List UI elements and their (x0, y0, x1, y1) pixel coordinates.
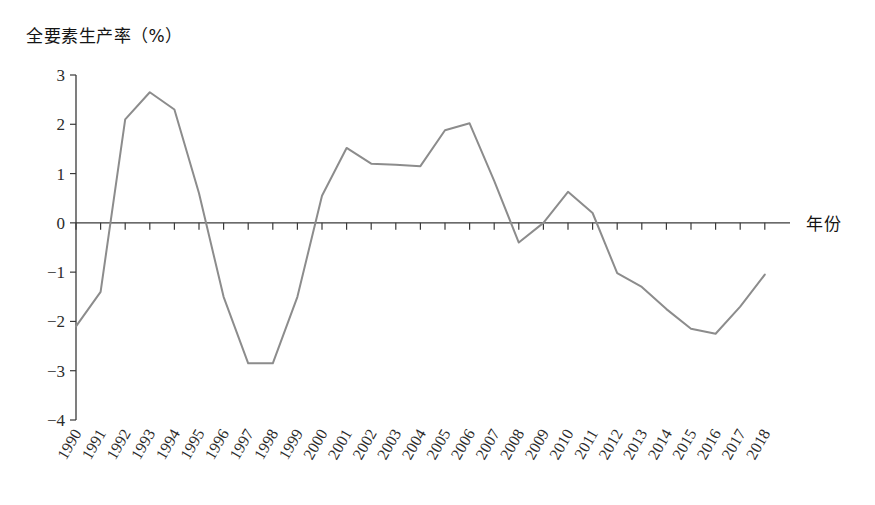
x-tick-label: 1991 (78, 426, 109, 462)
x-tick-label: 2016 (693, 426, 724, 462)
x-tick-label: 2011 (571, 426, 601, 462)
x-tick-label: 1993 (128, 426, 159, 462)
x-axis (76, 223, 790, 230)
x-tick-label: 1994 (152, 426, 183, 462)
x-tick-label: 2005 (423, 426, 454, 462)
x-tick-label: 2015 (669, 426, 700, 462)
x-tick-label: 2006 (447, 426, 478, 462)
y-tick-label: −2 (47, 312, 65, 331)
x-tick-label: 2018 (743, 426, 774, 462)
y-tick-label: −1 (47, 263, 65, 282)
y-tick-label: 0 (57, 214, 66, 233)
y-tick-label: 2 (57, 115, 66, 134)
y-tick-label: 3 (57, 66, 66, 85)
x-tick-label: 1996 (201, 426, 232, 462)
x-tick-label: 1995 (177, 426, 208, 462)
x-tick-label: 1998 (251, 426, 282, 462)
x-tick-label: 2007 (472, 426, 503, 462)
x-tick-label: 2014 (644, 426, 675, 462)
x-tick-label: 2013 (620, 426, 651, 462)
x-tick-label: 1992 (103, 426, 134, 462)
x-tick-label: 1999 (275, 426, 306, 462)
x-tick-label: 2001 (324, 426, 355, 462)
x-tick-label: 2003 (374, 426, 405, 462)
line-chart-plot: 3210−1−2−3−4 199019911992199319941995199… (0, 0, 875, 505)
x-tick-label: 2004 (398, 426, 429, 462)
x-tick-label: 1990 (54, 426, 85, 462)
y-axis: 3210−1−2−3−4 (47, 66, 76, 430)
x-tick-label: 1997 (226, 426, 257, 462)
x-tick-label: 2017 (718, 426, 749, 462)
x-tick-label: 2008 (497, 426, 528, 462)
x-tick-label: 2002 (349, 426, 380, 462)
x-tick-label: 2012 (595, 426, 626, 462)
y-tick-label: 1 (57, 165, 66, 184)
y-tick-label: −4 (47, 411, 66, 430)
x-tick-label: 2000 (300, 426, 331, 462)
y-tick-label: −3 (47, 362, 65, 381)
x-tick-label: 2009 (521, 426, 552, 462)
x-tick-label: 2010 (546, 426, 577, 462)
x-tick-labels: 1990199119921993199419951996199719981999… (54, 426, 774, 462)
chart-container: 全要素生产率（%） 年份 3210−1−2−3−4 19901991199219… (0, 0, 875, 505)
